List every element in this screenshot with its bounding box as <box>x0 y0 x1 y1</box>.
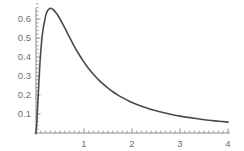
y-tick-label: 0.1 <box>18 109 31 119</box>
y-tick-label: 0.5 <box>18 33 31 43</box>
y-tick-label: 0.3 <box>18 71 31 81</box>
x-tick-label: 1 <box>74 139 94 149</box>
x-tick-label: 2 <box>122 139 142 149</box>
x-tick-label: 3 <box>170 139 190 149</box>
x-tick-label: 4 <box>218 139 238 149</box>
y-tick-label: 0.4 <box>18 52 31 62</box>
y-tick-label: 0.6 <box>18 14 31 24</box>
y-tick-label: 0.2 <box>18 90 31 100</box>
plot-area <box>0 0 244 151</box>
data-series-line <box>36 8 228 133</box>
chart-container: 0.10.20.30.40.50.6 1234 <box>0 0 244 151</box>
